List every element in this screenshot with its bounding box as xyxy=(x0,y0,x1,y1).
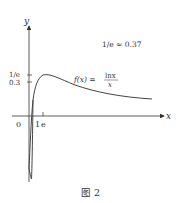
chart-figure: y x 0 1 e 1/e 0.3 1/e ≈ 0.37 f(x) = lnx … xyxy=(0,0,179,203)
y-tick-label-1e: 1/e xyxy=(9,71,20,79)
function-label: f(x) = xyxy=(73,75,96,84)
function-curve-lower xyxy=(29,100,33,179)
origin-label: 0 xyxy=(16,120,21,129)
figure-caption: 图 2 xyxy=(81,187,100,198)
x-axis-label: x xyxy=(166,111,171,121)
function-numerator: lnx xyxy=(105,72,116,80)
approx-note: 1/e ≈ 0.37 xyxy=(102,40,142,49)
function-denominator: x xyxy=(108,81,112,89)
y-tick-label-03: 0.3 xyxy=(9,79,20,87)
y-axis-label: y xyxy=(23,16,30,26)
x-tick-label-1: 1 xyxy=(35,120,40,129)
function-curve xyxy=(29,75,152,168)
x-tick-label-e: e xyxy=(41,120,46,129)
